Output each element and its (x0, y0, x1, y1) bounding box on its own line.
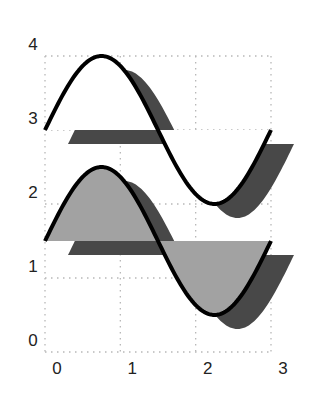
y-tick-label: 4 (28, 35, 37, 54)
x-tick-label: 1 (128, 359, 137, 378)
y-tick-label: 1 (28, 257, 37, 276)
y-tick-label: 3 (28, 109, 37, 128)
x-axis-tick-labels: 0123 (52, 359, 287, 378)
chart: 01234 0123 (0, 0, 320, 404)
x-tick-label: 0 (52, 359, 61, 378)
y-tick-label: 2 (28, 183, 37, 202)
y-tick-label: 0 (28, 331, 37, 350)
x-tick-label: 3 (278, 359, 287, 378)
plot-area (45, 56, 294, 329)
x-tick-label: 2 (203, 359, 212, 378)
y-axis-tick-labels: 01234 (28, 35, 37, 350)
